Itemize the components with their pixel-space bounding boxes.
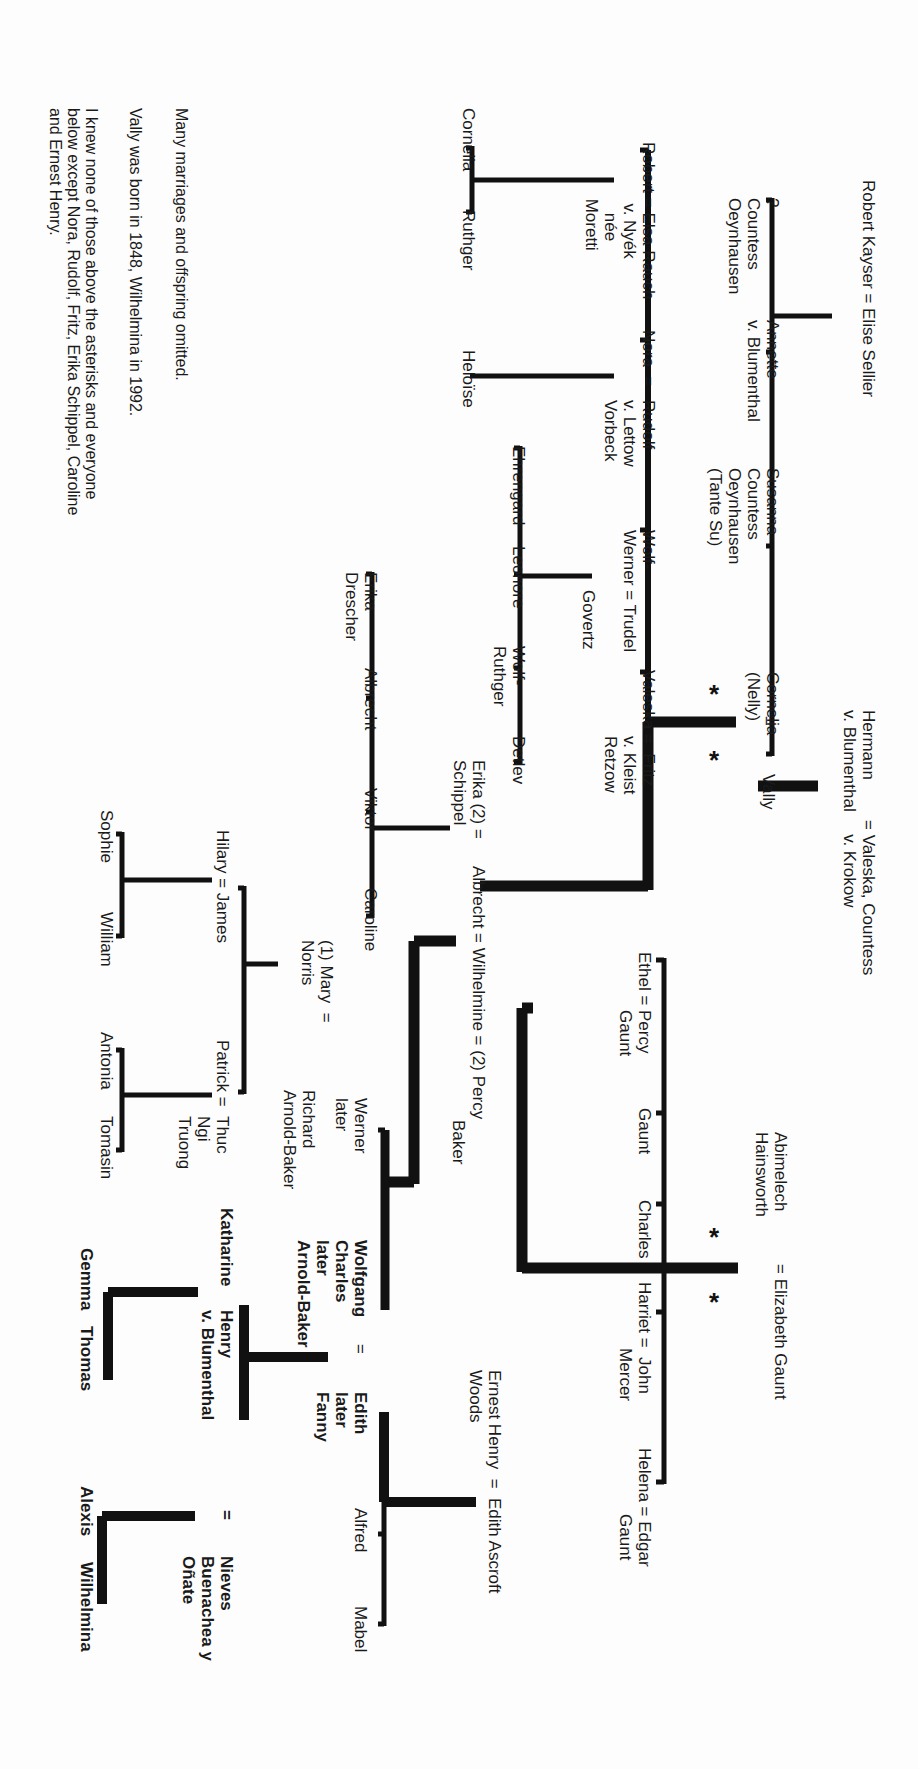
person-albrecht-child: Albrecht	[361, 668, 380, 730]
person-alexis: Alexis	[77, 1486, 96, 1536]
person-gaunt: Gaunt	[635, 1108, 654, 1154]
person-percy-baker: Baker	[449, 1120, 468, 1164]
person-abimelech: Abimelech Hainsworth	[752, 1132, 790, 1217]
person-edith-fanny: Edith later Fanny	[313, 1392, 370, 1442]
person-patrick: Patrick =	[213, 1040, 232, 1107]
person-antonia: Antonia	[97, 1032, 116, 1090]
person-william: William	[97, 912, 116, 967]
person-albrecht-wilhelmine: Albrecht = Wilhelmine = (2) Percy	[469, 866, 488, 1119]
person-robert-kayser: Robert Kayser = Elise Sellier	[859, 180, 878, 397]
person-gemma: Gemma	[77, 1248, 96, 1310]
note-marriages-omitted: Many marriages and offspring omitted.	[172, 108, 190, 381]
person-wolf-werner: Wolf- Werner = Trudel	[620, 530, 658, 652]
person-wolf-ruthger: Wolf- Ruthger	[490, 646, 528, 706]
marriage-sign: =	[351, 1344, 370, 1354]
person-robert-elsa: Robert = Elsa Rauch v. Nyék née Moretti	[582, 142, 658, 299]
asterisk-marker: *	[709, 745, 719, 776]
person-annette: Annette v. Blumenthal	[744, 320, 782, 422]
person-percy-gaunt: Percy Gaunt	[616, 1010, 654, 1056]
person-charles: Charles	[635, 1200, 654, 1259]
person-wolfgang: Wolfgang Charles later Arnold-Baker	[294, 1240, 370, 1348]
asterisk-marker: *	[709, 1222, 719, 1253]
person-tomasin: Tomasin	[97, 1116, 116, 1179]
person-nieves: Nieves Buenachea y Oñate	[179, 1556, 236, 1661]
person-hilary-james: Hilary = James	[213, 830, 232, 943]
person-richard-arnold-baker: Richard Arnold-Baker	[280, 1090, 318, 1189]
person-caroline: Caroline	[361, 888, 380, 951]
person-detlev: Detlev	[509, 736, 528, 784]
family-tree-page: Many marriages and offspring omitted. Va…	[0, 0, 918, 1769]
person-mary-norris: (1) Mary = Norris	[298, 940, 336, 1023]
person-katharine: Katharine	[217, 1208, 236, 1286]
person-nora: Nora =	[639, 330, 658, 386]
person-ernest-henry: Ernest Henry = Edith Ascroft Woods	[466, 1370, 504, 1593]
person-helena-edgar: Helena = Edgar Gaunt	[616, 1448, 654, 1567]
asterisk-marker: *	[709, 679, 719, 710]
person-govertz: Govertz	[579, 590, 598, 650]
person-cornelia: Cornelia	[459, 108, 478, 171]
note-acquaintances: I knew none of those above the asterisks…	[46, 108, 100, 515]
person-erika-drescher: Erika Drescher	[342, 572, 380, 641]
person-henry-blumenthal: Henry v. Blumenthal	[198, 1310, 236, 1420]
person-sophie: Sophie	[97, 810, 116, 863]
person-mabel: Mabel	[351, 1606, 370, 1652]
person-heloise: Heloïse	[459, 350, 478, 408]
person-viktor: Viktor	[361, 788, 380, 831]
person-thomas: Thomas	[77, 1326, 96, 1391]
person-leonore: Leonore	[509, 546, 528, 608]
person-hermann: Hermann v. Blumenthal	[840, 710, 878, 812]
person-werner-later: Werner later	[332, 1098, 370, 1153]
person-susanna: Susanna Countess Oeynhausen (Tante Su)	[706, 468, 782, 564]
asterisk-marker: *	[709, 1287, 719, 1318]
person-rudolf: Rudolf v. Lettow Vorbeck	[601, 400, 658, 467]
marriage-sign: =	[759, 716, 778, 726]
person-harriet-john: Harriet = John Mercer	[616, 1282, 654, 1401]
person-elizabeth-gaunt: = Elizabeth Gaunt	[771, 1264, 790, 1400]
person-ethel: Ethel =	[635, 952, 654, 1005]
person-wilhelmina: Wilhelmina	[77, 1562, 96, 1652]
person-valeska-countess: = Valeska, Countess v. Krokow	[840, 820, 878, 975]
person-ehrengard: Ehrengard	[509, 446, 528, 525]
person-valeska-fritz: Valeska = Fritz v. Kleist Retzow	[601, 670, 658, 794]
person-thuc-ngi-truong: Thuc Ngi Truong	[175, 1116, 232, 1169]
marriage-sign: =	[217, 1510, 236, 1520]
person-vally: Vally	[759, 774, 778, 810]
person-alfred: Alfred	[351, 1508, 370, 1552]
person-countess-oeynhausen: ? Countess Oeynhausen	[725, 198, 782, 294]
note-birth-years: Vally was born in 1848, Wilhelmina in 19…	[126, 108, 144, 416]
person-erika-schippel: Erika (2) = Schippel	[450, 760, 488, 839]
person-ruthger: Ruthger	[459, 210, 478, 270]
